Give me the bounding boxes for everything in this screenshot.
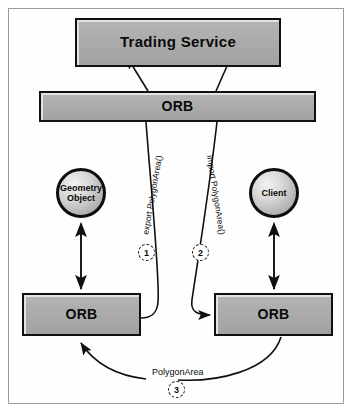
node-client-label: Client — [261, 188, 286, 198]
node-orb-left-label: ORB — [65, 306, 97, 322]
connector-polygonarea-result-tail — [81, 343, 146, 379]
connector-import-flow — [192, 122, 217, 315]
node-geometry-object-label-line2: Object — [67, 193, 95, 203]
node-orb-top-label: ORB — [161, 98, 193, 114]
node-trading-service-label: Trading Service — [120, 33, 236, 50]
node-orb-right[interactable]: ORB — [214, 293, 333, 336]
step-badge-1: 1 — [138, 244, 155, 261]
node-geometry-object-label-line1: Geometry — [60, 183, 102, 193]
diagram-canvas: Trading Service ORB ORB ORB Geometry Obj… — [0, 0, 354, 414]
node-orb-right-label: ORB — [257, 306, 289, 322]
step-badge-2: 2 — [192, 244, 209, 261]
node-geometry-object-label: Geometry Object — [60, 183, 102, 203]
node-orb-top[interactable]: ORB — [39, 91, 316, 122]
node-orb-left[interactable]: ORB — [22, 293, 141, 336]
step-badge-3: 3 — [168, 381, 185, 398]
edge-label-polygonarea: PolygonArea — [152, 367, 204, 377]
node-client[interactable]: Client — [249, 168, 299, 218]
node-trading-service[interactable]: Trading Service — [75, 18, 281, 67]
node-geometry-object[interactable]: Geometry Object — [56, 168, 106, 218]
